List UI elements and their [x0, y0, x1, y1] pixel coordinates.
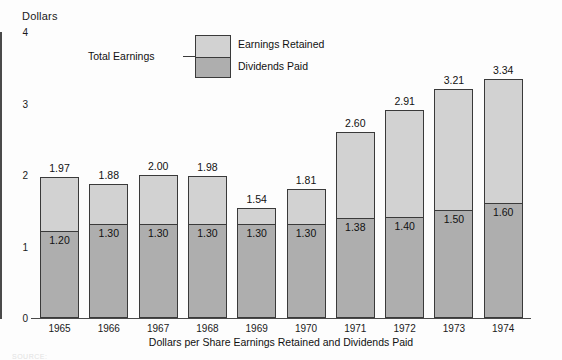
bar-dividend-value-label: 1.60: [485, 206, 522, 218]
y-axis-tick-labels: 01234: [6, 0, 28, 360]
legend-dividends-paid-label: Dividends Paid: [238, 60, 308, 72]
bar-dividend-value-label: 1.38: [337, 221, 374, 233]
y-tick-label: 1: [8, 241, 28, 252]
bar-dividends-paid[interactable]: 1.30: [238, 224, 275, 317]
bar-earnings-retained[interactable]: 1.30: [89, 184, 128, 318]
bar-earnings-retained[interactable]: 1.30: [237, 208, 276, 318]
plot-area: 1.201.9719651.301.8819661.302.0019671.30…: [31, 32, 531, 318]
bar-earnings-retained[interactable]: 1.38: [336, 132, 375, 318]
legend-earnings-retained-label: Earnings Retained: [238, 38, 324, 50]
bar-total-value-label: 3.21: [434, 74, 473, 86]
bar-group[interactable]: 1.382.601971: [336, 32, 375, 318]
bar-group[interactable]: 1.302.001967: [139, 32, 178, 318]
bar-dividends-paid[interactable]: 1.38: [337, 218, 374, 317]
bar-dividends-paid[interactable]: 1.20: [41, 231, 78, 317]
bar-total-value-label: 1.81: [287, 174, 326, 186]
bar-dividend-value-label: 1.30: [238, 227, 275, 239]
bar-total-value-label: 2.91: [385, 95, 424, 107]
bar-dividend-value-label: 1.50: [435, 213, 472, 225]
chart-page: Dollars 01234 1.201.9719651.301.8819661.…: [0, 0, 562, 360]
x-tick-label: 1967: [139, 323, 178, 334]
bar-earnings-retained[interactable]: 1.50: [434, 89, 473, 319]
bar-total-value-label: 2.00: [139, 160, 178, 172]
x-tick-label: 1966: [89, 323, 128, 334]
bar-total-value-label: 2.60: [336, 117, 375, 129]
legend-swatch: [195, 35, 231, 78]
bar-earnings-retained[interactable]: 1.30: [287, 189, 326, 318]
chart-caption: Dollars per Share Earnings Retained and …: [0, 336, 562, 348]
legend-connector-line: [183, 56, 195, 57]
x-tick-label: 1974: [484, 323, 523, 334]
bar-dividend-value-label: 1.20: [41, 234, 78, 246]
bar-earnings-retained[interactable]: 1.30: [139, 175, 178, 318]
x-tick-label: 1968: [188, 323, 227, 334]
x-tick-label: 1965: [40, 323, 79, 334]
x-tick-label: 1969: [237, 323, 276, 334]
bar-group[interactable]: 1.301.881966: [89, 32, 128, 318]
x-tick-label: 1972: [385, 323, 424, 334]
bar-total-value-label: 3.34: [484, 64, 523, 76]
bar-group[interactable]: 1.603.341974: [484, 32, 523, 318]
bar-dividend-value-label: 1.30: [140, 227, 177, 239]
bar-earnings-retained[interactable]: 1.30: [188, 176, 227, 318]
bar-dividends-paid[interactable]: 1.30: [90, 224, 127, 317]
bar-dividends-paid[interactable]: 1.40: [386, 217, 423, 317]
bar-earnings-retained[interactable]: 1.40: [385, 110, 424, 318]
bar-dividend-value-label: 1.30: [189, 227, 226, 239]
y-tick-label: 0: [8, 313, 28, 324]
x-tick-label: 1971: [336, 323, 375, 334]
bar-dividends-paid[interactable]: 1.50: [435, 210, 472, 317]
source-note: SOURCE:: [12, 353, 47, 360]
x-tick-label: 1973: [434, 323, 473, 334]
legend-swatch-dividends: [196, 57, 230, 78]
bar-group[interactable]: 1.503.211973: [434, 32, 473, 318]
y-tick-label: 4: [8, 27, 28, 38]
bar-dividends-paid[interactable]: 1.30: [140, 224, 177, 317]
y-axis-line: [0, 32, 2, 319]
bar-group[interactable]: 1.301.811970: [287, 32, 326, 318]
bar-group[interactable]: 1.301.541969: [237, 32, 276, 318]
bar-dividends-paid[interactable]: 1.30: [189, 224, 226, 317]
bar-dividend-value-label: 1.30: [288, 227, 325, 239]
bar-dividend-value-label: 1.40: [386, 220, 423, 232]
bar-group[interactable]: 1.201.971965: [40, 32, 79, 318]
bar-group[interactable]: 1.402.911972: [385, 32, 424, 318]
y-tick-label: 3: [8, 98, 28, 109]
bar-earnings-retained[interactable]: 1.20: [40, 177, 79, 318]
x-axis-line: [31, 318, 531, 319]
bar-total-value-label: 1.54: [237, 193, 276, 205]
legend-total-earnings-label: Total Earnings: [88, 50, 155, 62]
bar-dividends-paid[interactable]: 1.60: [485, 203, 522, 317]
bar-total-value-label: 1.98: [188, 161, 227, 173]
bar-dividends-paid[interactable]: 1.30: [288, 224, 325, 317]
y-tick-label: 2: [8, 170, 28, 181]
bar-earnings-retained[interactable]: 1.60: [484, 79, 523, 318]
x-tick-label: 1970: [287, 323, 326, 334]
bar-total-value-label: 1.97: [40, 162, 79, 174]
bar-total-value-label: 1.88: [89, 169, 128, 181]
bar-dividend-value-label: 1.30: [90, 227, 127, 239]
